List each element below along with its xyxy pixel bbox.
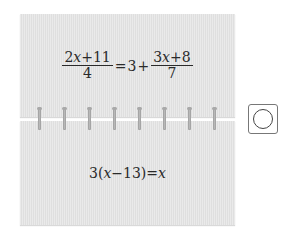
lhs-denominator: 4 — [83, 66, 92, 81]
binder-ring-icon — [213, 108, 216, 130]
bottom-equation: 3(x−13)=x — [20, 165, 235, 181]
rhs-numerator: 3x+8 — [151, 50, 192, 66]
binder-ring-icon — [63, 108, 66, 130]
binder-ring-icon — [88, 108, 91, 130]
binder-ring-icon — [188, 108, 191, 130]
eq-rhs-var: x — [158, 165, 166, 181]
top-card: 2x+11 4 = 3 + 3x+8 7 — [20, 14, 235, 117]
rhs-fraction: 3x+8 7 — [151, 50, 192, 81]
lhs-numerator: 2x+11 — [62, 50, 112, 66]
constant: 3 — [127, 58, 136, 74]
answer-box[interactable] — [248, 104, 278, 134]
circle-mark-icon — [253, 109, 273, 129]
eq-var: x — [103, 165, 111, 181]
bottom-card: 3(x−13)=x — [20, 121, 235, 225]
binder-ring-icon — [163, 108, 166, 130]
eq-prefix: 3( — [89, 165, 103, 181]
binder-ring-icon — [113, 108, 116, 130]
lhs-fraction: 2x+11 4 — [62, 50, 112, 81]
top-equation: 2x+11 4 = 3 + 3x+8 7 — [20, 50, 235, 81]
equals-sign: = — [115, 58, 127, 74]
plus-sign: + — [137, 58, 149, 74]
eq-middle: −13)= — [111, 165, 158, 181]
binder-ring-icon — [38, 108, 41, 130]
rhs-denominator: 7 — [167, 66, 176, 81]
binder-ring-icon — [138, 108, 141, 130]
